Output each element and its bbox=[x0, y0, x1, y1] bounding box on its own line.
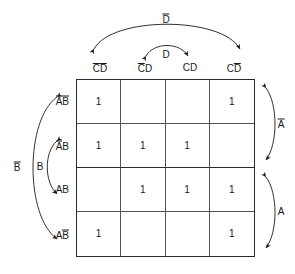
arc-d-not bbox=[94, 24, 240, 49]
kmap-cell-r1c2[interactable]: 1 bbox=[166, 124, 210, 168]
group-label-a: A bbox=[278, 207, 285, 217]
kmap-cell-r1c1[interactable]: 1 bbox=[121, 124, 165, 168]
row-header-2: AB bbox=[43, 185, 69, 195]
kmap-cell-r0c3[interactable]: 1 bbox=[210, 80, 254, 124]
kmap-cell-r0c2[interactable] bbox=[166, 80, 210, 124]
kmap-cell-r2c3[interactable]: 1 bbox=[210, 168, 254, 212]
kmap-cell-r3c0[interactable]: 1 bbox=[77, 212, 121, 256]
row-header-1: AB bbox=[43, 141, 69, 152]
kmap-cell-r3c2[interactable] bbox=[166, 212, 210, 256]
kmap-cell-r2c1[interactable]: 1 bbox=[121, 168, 165, 212]
kmap-cell-r3c3[interactable]: 1 bbox=[210, 212, 254, 256]
kmap-cell-r0c0[interactable]: 1 bbox=[77, 80, 121, 124]
kmap-cell-r2c2[interactable]: 1 bbox=[166, 168, 210, 212]
column-header-0: CD bbox=[93, 63, 107, 74]
column-header-3: CD bbox=[227, 63, 241, 74]
kmap-grid: 1 1 1 1 1 1 1 1 1 1 bbox=[76, 79, 255, 257]
row-header-0: AB bbox=[43, 96, 69, 107]
kmap-cell-r0c1[interactable] bbox=[121, 80, 165, 124]
row-header-3: AB bbox=[43, 230, 69, 241]
group-label-b-not: B bbox=[14, 162, 21, 173]
group-label-d: D bbox=[162, 50, 169, 60]
column-header-1: CD bbox=[138, 63, 152, 74]
kmap-cell-r2c0[interactable] bbox=[77, 168, 121, 212]
group-label-b: B bbox=[37, 162, 44, 172]
group-label-a-not: A bbox=[278, 119, 285, 130]
arc-a bbox=[266, 177, 275, 248]
arc-a-not bbox=[266, 88, 275, 160]
group-label-d-not: D bbox=[162, 14, 169, 25]
kmap-cell-r1c0[interactable]: 1 bbox=[77, 124, 121, 168]
kmap-cell-r3c1[interactable] bbox=[121, 212, 165, 256]
column-header-2: CD bbox=[183, 63, 197, 73]
kmap-cell-r1c3[interactable] bbox=[210, 124, 254, 168]
karnaugh-map-figure: D D CD CD CD CD AB AB AB AB B B A A 1 bbox=[0, 0, 295, 274]
